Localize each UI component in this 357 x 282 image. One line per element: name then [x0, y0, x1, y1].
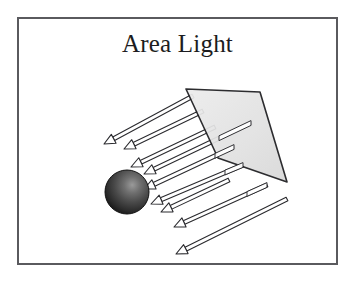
figure-frame-border: Area Light: [17, 17, 338, 265]
light-ray-segment: [247, 183, 267, 197]
area-light-diagram: [19, 19, 340, 267]
lit-sphere: [105, 170, 149, 214]
light-ray-arrow: [176, 197, 288, 254]
light-ray-segment: [225, 163, 243, 175]
figure-root: Area Light: [0, 0, 357, 282]
